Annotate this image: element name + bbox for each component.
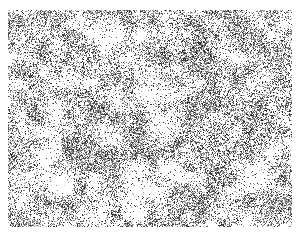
image-frame xyxy=(0,0,304,242)
micrograph-image xyxy=(8,10,292,227)
